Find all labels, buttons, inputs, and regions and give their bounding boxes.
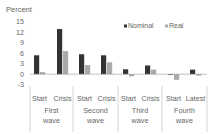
y-tick-label: 15 [16, 17, 24, 26]
group-label: Third [132, 106, 148, 115]
bar-nominal [57, 29, 62, 74]
bar-nominal [79, 54, 84, 74]
bar-real [40, 72, 45, 74]
bars [34, 29, 201, 80]
y-tick-label: 3 [20, 59, 24, 68]
x-axis-labels: StartCrisisFirstwaveStartCrisisSecondwav… [30, 86, 207, 132]
category-label: Crisis [54, 94, 72, 103]
bar-real [107, 62, 112, 74]
group-label: wave [86, 116, 104, 125]
category-label: Start [77, 94, 92, 103]
bar-real [63, 51, 68, 74]
y-tick-label: 12 [16, 28, 24, 37]
group-label: wave [175, 116, 193, 125]
category-label: Start [166, 94, 181, 103]
y-tick-label: 6 [20, 49, 24, 58]
legend-label-nominal: Nominal [128, 22, 154, 29]
legend-swatch-real [165, 25, 168, 28]
category-label: Crisis [98, 94, 116, 103]
category-label: Latest [186, 94, 206, 103]
category-label: Crisis [142, 94, 160, 103]
legend-label-real: Real [169, 22, 184, 29]
category-label: Start [32, 94, 47, 103]
y-axis-label: Percent [6, 5, 33, 14]
y-axis-ticks: 15129630-3 [16, 17, 24, 89]
legend-swatch-nominal [124, 25, 127, 28]
y-tick-label: 0 [20, 70, 24, 79]
group-label: Second [83, 106, 107, 115]
bar-real [129, 74, 134, 76]
legend: NominalReal [124, 22, 184, 29]
bar-nominal [101, 55, 106, 74]
group-label: First [45, 106, 59, 115]
y-tick-label: 9 [20, 38, 24, 47]
bar-chart: Percent 15129630-3 NominalReal StartCris… [0, 0, 220, 134]
group-label: Fourth [174, 106, 195, 115]
category-label: Start [121, 94, 136, 103]
bar-real [85, 65, 90, 74]
bar-nominal [123, 69, 128, 74]
y-tick-label: -3 [18, 80, 24, 89]
group-label: wave [131, 116, 149, 125]
bar-real [151, 70, 156, 75]
bar-nominal [190, 70, 195, 75]
group-label: wave [42, 116, 60, 125]
bar-nominal [34, 55, 39, 74]
bar-real [174, 74, 179, 80]
bar-nominal [145, 65, 150, 74]
